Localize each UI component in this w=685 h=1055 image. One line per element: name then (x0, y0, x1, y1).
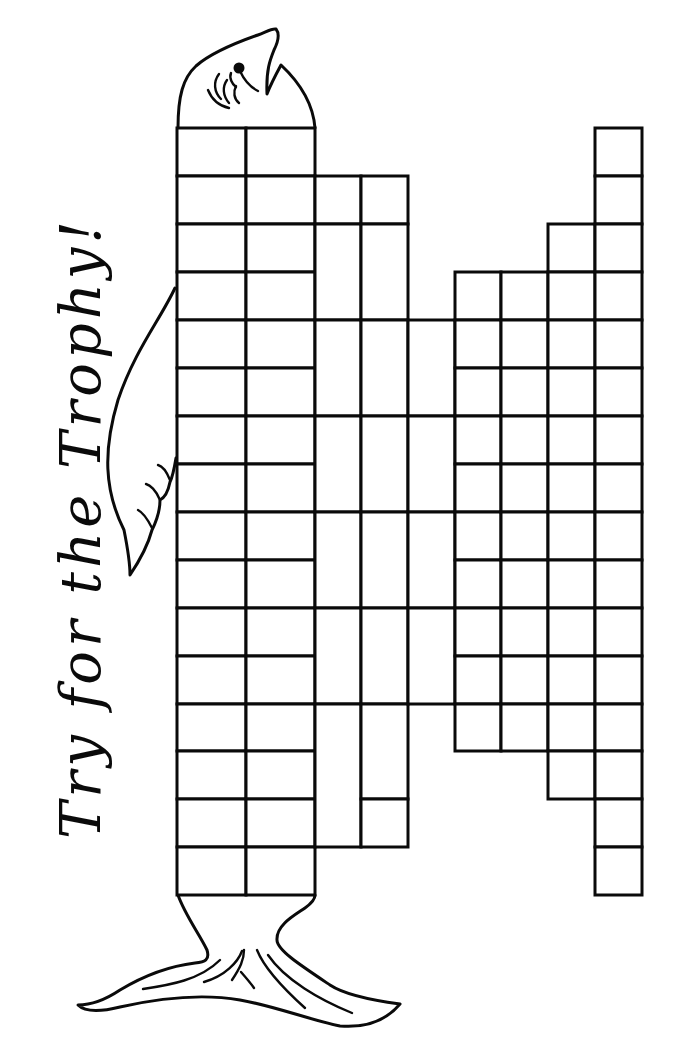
grid-cell[interactable] (246, 608, 315, 656)
grid-cell[interactable] (595, 176, 642, 224)
grid-cell[interactable] (501, 512, 548, 560)
grid-cell[interactable] (246, 656, 315, 704)
grid-cell[interactable] (246, 224, 315, 272)
grid-cell[interactable] (595, 272, 642, 320)
grid-cell[interactable] (548, 224, 595, 272)
grid-cell[interactable] (595, 416, 642, 464)
grid-cell[interactable] (177, 560, 246, 608)
grid-cell[interactable] (177, 847, 246, 895)
grid-cell[interactable] (548, 704, 595, 751)
grid-cell[interactable] (177, 512, 246, 560)
grid-cell[interactable] (246, 799, 315, 847)
grid-cell[interactable] (246, 416, 315, 464)
grid-cell[interactable] (548, 512, 595, 560)
grid-cell[interactable] (455, 512, 501, 560)
grid-cell[interactable] (315, 176, 361, 224)
grid-cell[interactable] (177, 128, 246, 176)
grid-cell[interactable] (595, 799, 642, 847)
grid-cell[interactable] (501, 656, 548, 704)
grid-cell[interactable] (595, 368, 642, 416)
grid-cell[interactable] (501, 464, 548, 512)
grid-cell[interactable] (246, 320, 315, 368)
grid-cell[interactable] (595, 320, 642, 368)
grid-cell[interactable] (455, 416, 501, 464)
grid-cell[interactable] (246, 704, 315, 751)
grid-cell[interactable] (548, 560, 595, 608)
grid-cell[interactable] (361, 176, 408, 224)
grid-cell[interactable] (595, 847, 642, 895)
grid-cell[interactable] (315, 224, 361, 320)
grid-cell[interactable] (455, 608, 501, 656)
grid-cell[interactable] (595, 704, 642, 751)
grid-cell[interactable] (177, 176, 246, 224)
grid-cell[interactable] (177, 704, 246, 751)
grid-cell[interactable] (177, 416, 246, 464)
grid-cell[interactable] (548, 656, 595, 704)
grid-cell[interactable] (548, 751, 595, 799)
grid-cell[interactable] (177, 799, 246, 847)
grid-cell[interactable] (246, 751, 315, 799)
grid-cell[interactable] (455, 560, 501, 608)
grid-cell[interactable] (595, 560, 642, 608)
grid-cell[interactable] (315, 416, 361, 512)
grid-cell[interactable] (246, 560, 315, 608)
grid-cell[interactable] (315, 320, 361, 416)
grid-cell[interactable] (408, 608, 455, 704)
grid-cell[interactable] (455, 368, 501, 416)
grid-cell[interactable] (595, 464, 642, 512)
grid-cell[interactable] (455, 464, 501, 512)
grid-cell[interactable] (361, 608, 408, 704)
grid-cell[interactable] (177, 656, 246, 704)
grid-cell[interactable] (455, 272, 501, 320)
grid-cell[interactable] (246, 368, 315, 416)
grid-cell[interactable] (501, 608, 548, 656)
grid-cell[interactable] (177, 224, 246, 272)
grid-cell[interactable] (246, 128, 315, 176)
grid-cell[interactable] (177, 320, 246, 368)
grid-cell[interactable] (501, 320, 548, 368)
grid-cell[interactable] (548, 368, 595, 416)
grid-cell[interactable] (548, 464, 595, 512)
grid-cell[interactable] (246, 847, 315, 895)
grid-cell[interactable] (246, 512, 315, 560)
grid-cell[interactable] (595, 608, 642, 656)
grid-cell[interactable] (595, 512, 642, 560)
grid-cell[interactable] (408, 320, 455, 416)
grid-cell[interactable] (595, 224, 642, 272)
grid-cell[interactable] (455, 320, 501, 368)
grid-cell[interactable] (501, 272, 548, 320)
grid-cell[interactable] (361, 799, 408, 847)
grid-cell[interactable] (501, 704, 548, 751)
grid-cell[interactable] (315, 512, 361, 608)
grid-cell[interactable] (595, 656, 642, 704)
grid-cell[interactable] (246, 464, 315, 512)
grid-cell[interactable] (548, 272, 595, 320)
grid-cell[interactable] (361, 224, 408, 320)
grid-cell[interactable] (361, 704, 408, 799)
grid-cell[interactable] (548, 416, 595, 464)
grid-cell[interactable] (595, 128, 642, 176)
grid-cell[interactable] (501, 416, 548, 464)
grid-cell[interactable] (361, 320, 408, 416)
grid-column-e (408, 320, 455, 704)
grid-cell[interactable] (315, 704, 361, 847)
grid-cell[interactable] (595, 751, 642, 799)
grid-cell[interactable] (408, 416, 455, 512)
grid-cell[interactable] (501, 560, 548, 608)
grid-cell[interactable] (177, 751, 246, 799)
grid-cell[interactable] (177, 464, 246, 512)
grid-cell[interactable] (501, 368, 548, 416)
grid-cell[interactable] (455, 704, 501, 751)
grid-cell[interactable] (246, 176, 315, 224)
grid-cell[interactable] (455, 656, 501, 704)
grid-cell[interactable] (246, 272, 315, 320)
grid-cell[interactable] (177, 368, 246, 416)
grid-cell[interactable] (177, 272, 246, 320)
grid-cell[interactable] (361, 512, 408, 608)
grid-cell[interactable] (548, 608, 595, 656)
grid-cell[interactable] (548, 320, 595, 368)
grid-cell[interactable] (408, 512, 455, 608)
grid-cell[interactable] (361, 416, 408, 512)
grid-cell[interactable] (177, 608, 246, 656)
grid-cell[interactable] (315, 608, 361, 704)
